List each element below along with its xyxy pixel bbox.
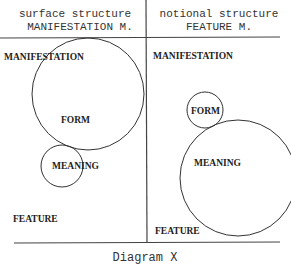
left-meaning-label: MEANING [52,161,100,171]
left-feature-label: FEATURE [13,214,58,224]
right-form-label: FORM [191,106,220,116]
left-panel-header: surface structure MANIFESTATION M. [19,8,133,33]
vertical-divider [146,0,147,242]
left-header-line2: MANIFESTATION M. [27,21,133,33]
diagram-x: surface structure MANIFESTATION M. notio… [0,0,291,265]
diagram-caption: Diagram X [113,251,178,265]
right-meaning-circle [180,120,291,236]
right-panel-header: notional structure FEATURE M. [160,8,279,33]
right-manifestation-label: MANIFESTATION [153,51,233,61]
right-header-line2: FEATURE M. [186,21,252,33]
right-feature-label: FEATURE [155,226,200,236]
left-form-label: FORM [61,115,90,125]
header-rule [0,37,280,38]
right-panel: MANIFESTATION FORM MEANING FEATURE [153,51,291,236]
left-manifestation-label: MANIFESTATION [4,52,84,62]
bottom-rule [14,242,280,243]
right-meaning-label: MEANING [194,158,242,168]
left-panel: MANIFESTATION FORM MEANING FEATURE [4,38,144,224]
left-header-line1: surface structure [19,8,131,20]
right-header-line1: notional structure [160,8,279,20]
